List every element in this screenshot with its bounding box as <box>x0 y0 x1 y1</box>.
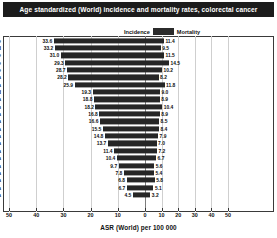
incidence-bar <box>117 156 145 161</box>
chart-row: Central America10.46.7 <box>3 155 274 162</box>
incidence-bar <box>114 148 145 153</box>
incidence-value: 15.5 <box>92 126 102 131</box>
x-tick-mark <box>9 208 10 211</box>
x-tick-mark <box>211 208 212 211</box>
incidence-bar <box>61 53 145 58</box>
incidence-value: 31.0 <box>50 53 60 58</box>
chart-row: Western Africa6.75.1 <box>3 184 274 191</box>
incidence-value: 28.2 <box>57 75 67 80</box>
mortality-bar <box>145 170 154 175</box>
mortality-bar <box>145 67 162 72</box>
incidence-bar <box>95 104 145 109</box>
mortality-value: 5.1 <box>155 185 162 190</box>
incidence-value: 4.5 <box>124 192 131 197</box>
x-tick-mark <box>36 208 37 211</box>
x-tick-mark <box>118 208 119 211</box>
row-label: Western Africa <box>0 185 1 191</box>
mortality-value: 8.4 <box>160 126 167 131</box>
x-tick-mark <box>195 208 196 211</box>
row-label: South-Eastern Asia <box>0 133 1 139</box>
mortality-bar <box>145 156 156 161</box>
chart-row: Eastern Africa7.85.4 <box>3 169 274 176</box>
x-axis-label: ASR (World) per 100 000 <box>0 224 277 231</box>
incidence-value: 18.8 <box>83 97 93 102</box>
row-label: World <box>0 89 1 95</box>
row-label: Southern Africa <box>0 140 1 146</box>
x-tick-mark <box>228 208 229 211</box>
mortality-value: 5.4 <box>155 170 162 175</box>
x-tick-mark <box>145 208 146 211</box>
chart-row: Micronesia16.68.5 <box>3 118 274 125</box>
mortality-bar <box>145 38 164 43</box>
mortality-bar <box>145 82 165 87</box>
incidence-value: 28.7 <box>56 68 66 73</box>
row-label: Melanesia <box>0 148 1 154</box>
row-label: Eastern Asia <box>0 82 1 88</box>
row-label: Australia and New Zealand <box>0 45 1 51</box>
row-label: Eastern Africa <box>0 170 1 176</box>
x-tick-label: 10 <box>159 212 165 218</box>
mortality-value: 14.5 <box>171 60 181 65</box>
incidence-bar <box>108 141 145 146</box>
incidence-value: 25.9 <box>64 82 74 87</box>
mortality-value: 9.5 <box>162 46 169 51</box>
row-label: Western Europe <box>0 67 1 73</box>
row-label: Northern America <box>0 74 1 80</box>
mortality-value: 8.9 <box>161 112 168 117</box>
chart-row: Northern Africa9.75.6 <box>3 162 274 169</box>
row-label: Middle Africa <box>0 177 1 183</box>
x-tick-label: 10 <box>115 212 121 218</box>
chart-row: Northern America28.28.2 <box>3 74 274 81</box>
incidence-value: 18.2 <box>84 104 94 109</box>
mortality-value: 8.5 <box>161 119 168 124</box>
mortality-value: 5.6 <box>156 163 163 168</box>
incidence-value: 7.8 <box>115 170 122 175</box>
incidence-value: 33.2 <box>44 46 54 51</box>
incidence-bar <box>55 45 145 50</box>
incidence-bar <box>67 67 145 72</box>
chart-title-bar: Age standardized (World) incidence and m… <box>3 2 274 17</box>
mortality-bar <box>145 45 161 50</box>
incidence-value: 29.3 <box>54 60 64 65</box>
x-tick-mark <box>178 208 179 211</box>
chart-row: Caribbean18.210.4 <box>3 103 274 110</box>
chart-row: South-Central Asia4.53.2 <box>3 191 274 198</box>
chart-row: Australia and New Zealand33.29.5 <box>3 44 274 51</box>
mortality-bar <box>145 75 159 80</box>
incidence-bar <box>68 75 145 80</box>
mortality-bar <box>145 60 169 65</box>
chart-row: Central and Eastern Europe29.314.5 <box>3 59 274 66</box>
legend-label-mortality: Mortality <box>177 29 200 35</box>
mortality-bar <box>145 185 153 190</box>
row-label: South America <box>0 96 1 102</box>
mortality-value: 11.4 <box>165 38 174 43</box>
chart-row: World19.39.0 <box>3 88 274 95</box>
title-spacer <box>0 17 277 26</box>
mortality-bar <box>145 53 164 58</box>
incidence-bar <box>65 60 145 65</box>
mortality-value: 7.9 <box>160 134 167 139</box>
incidence-bar <box>103 126 145 131</box>
mortality-bar <box>145 148 157 153</box>
incidence-value: 14.8 <box>94 134 104 139</box>
row-label: Polynesia <box>0 126 1 132</box>
mortality-bar <box>145 119 159 124</box>
mortality-value: 10.2 <box>163 68 173 73</box>
mortality-value: 7.0 <box>158 141 165 146</box>
incidence-value: 33.6 <box>43 38 53 43</box>
mortality-bar <box>145 97 160 102</box>
incidence-value: 11.4 <box>103 148 112 153</box>
chart-row: Melanesia11.47.2 <box>3 147 274 154</box>
chart-row: Western Europe28.710.2 <box>3 66 274 73</box>
incidence-bar <box>94 97 145 102</box>
mortality-value: 6.7 <box>158 156 165 161</box>
plot-area: Northern Europe33.611.4Australia and New… <box>3 36 274 212</box>
x-axis: 504030201001020304050 <box>3 212 274 224</box>
page-title: Age standardized (World) incidence and m… <box>3 2 274 17</box>
mortality-value: 5.8 <box>156 178 163 183</box>
row-label: Northern Europe <box>0 38 1 44</box>
chart-row: Southern Europe31.011.5 <box>3 52 274 59</box>
x-tick-label: 20 <box>88 212 94 218</box>
incidence-bar <box>54 38 145 43</box>
chart-row: Polynesia15.58.4 <box>3 125 274 132</box>
